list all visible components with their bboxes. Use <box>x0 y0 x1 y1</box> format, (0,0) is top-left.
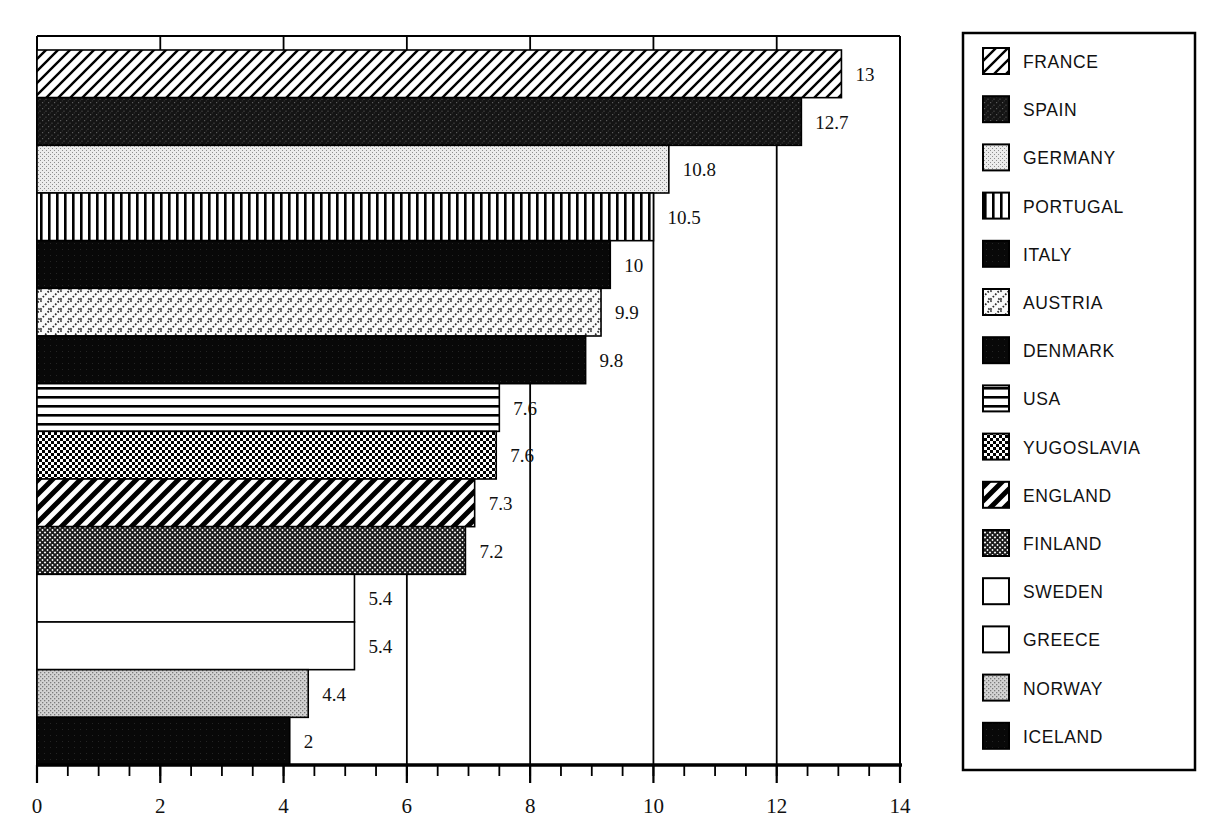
legend-swatch <box>983 530 1009 556</box>
bar-value-label: 5.4 <box>368 636 392 657</box>
bar-germany <box>37 145 669 193</box>
bar-value-label: 2 <box>304 731 314 752</box>
legend-item-england[interactable]: ENGLAND <box>983 482 1112 508</box>
bar-portugal <box>37 193 653 241</box>
legend-item-spain[interactable]: SPAIN <box>983 96 1077 122</box>
bar-value-label: 9.8 <box>600 350 624 371</box>
legend-item-sweden[interactable]: SWEDEN <box>983 578 1103 604</box>
legend-item-italy[interactable]: ITALY <box>983 241 1072 267</box>
legend-label: ENGLAND <box>1023 486 1112 506</box>
bar-value-label: 7.2 <box>479 541 503 562</box>
horizontal-bar-chart: 1312.710.810.5109.99.87.67.67.37.25.45.4… <box>0 0 1222 830</box>
bar-value-label: 7.6 <box>513 398 537 419</box>
legend-swatch <box>983 723 1009 749</box>
chart-page: 1312.710.810.5109.99.87.67.67.37.25.45.4… <box>0 0 1222 830</box>
bar-france <box>37 50 841 98</box>
legend-label: FRANCE <box>1023 52 1099 72</box>
bar-austria <box>37 288 601 336</box>
bar-value-label: 7.6 <box>510 445 534 466</box>
legend-label: GERMANY <box>1023 148 1116 168</box>
legend-label: AUSTRIA <box>1023 293 1103 313</box>
x-tick-label: 8 <box>525 794 536 818</box>
legend-label: FINLAND <box>1023 534 1102 554</box>
x-tick-label: 10 <box>643 794 664 818</box>
bar-yugoslavia <box>37 431 496 479</box>
bar-value-label: 4.4 <box>322 684 346 705</box>
legend-label: SPAIN <box>1023 100 1077 120</box>
bar-england <box>37 479 475 527</box>
legend-swatch <box>983 434 1009 460</box>
legend-label: ITALY <box>1023 245 1072 265</box>
legend-swatch <box>983 48 1009 74</box>
bar-denmark <box>37 336 586 384</box>
legend-swatch <box>983 289 1009 315</box>
legend-item-norway[interactable]: NORWAY <box>983 675 1103 701</box>
bar-iceland <box>37 717 290 765</box>
legend-label: PORTUGAL <box>1023 197 1124 217</box>
legend-label: SWEDEN <box>1023 582 1103 602</box>
bar-value-label: 7.3 <box>489 493 513 514</box>
legend-label: DENMARK <box>1023 341 1115 361</box>
bar-value-label: 12.7 <box>815 112 848 133</box>
bar-value-label: 9.9 <box>615 302 639 323</box>
legend-swatch <box>983 193 1009 219</box>
bar-norway <box>37 670 308 718</box>
x-tick-label: 12 <box>766 794 787 818</box>
legend-item-austria[interactable]: AUSTRIA <box>983 289 1103 315</box>
legend-swatch <box>983 626 1009 652</box>
legend-item-greece[interactable]: GREECE <box>983 626 1101 652</box>
legend: FRANCESPAINGERMANYPORTUGALITALYAUSTRIADE… <box>963 33 1195 770</box>
bar-finland <box>37 527 465 575</box>
bar-value-label: 10 <box>624 255 643 276</box>
legend-swatch <box>983 675 1009 701</box>
legend-item-germany[interactable]: GERMANY <box>983 144 1116 170</box>
bar-usa <box>37 384 499 432</box>
x-tick-label: 14 <box>890 794 912 818</box>
x-tick-label: 6 <box>402 794 413 818</box>
bar-value-label: 5.4 <box>368 588 392 609</box>
legend-item-yugoslavia[interactable]: YUGOSLAVIA <box>983 434 1141 460</box>
bar-spain <box>37 98 801 146</box>
legend-swatch <box>983 337 1009 363</box>
legend-swatch <box>983 385 1009 411</box>
legend-item-france[interactable]: FRANCE <box>983 48 1099 74</box>
legend-label: YUGOSLAVIA <box>1023 438 1141 458</box>
legend-swatch <box>983 482 1009 508</box>
legend-label: NORWAY <box>1023 679 1103 699</box>
legend-item-denmark[interactable]: DENMARK <box>983 337 1115 363</box>
bar-italy <box>37 241 610 289</box>
x-tick-label: 0 <box>32 794 43 818</box>
legend-label: GREECE <box>1023 630 1101 650</box>
legend-label: ICELAND <box>1023 727 1103 747</box>
bar-greece <box>37 622 354 670</box>
legend-swatch <box>983 144 1009 170</box>
legend-swatch <box>983 241 1009 267</box>
legend-item-finland[interactable]: FINLAND <box>983 530 1102 556</box>
bar-value-label: 10.5 <box>667 207 700 228</box>
x-tick-label: 4 <box>278 794 289 818</box>
x-tick-label: 2 <box>155 794 166 818</box>
legend-swatch <box>983 96 1009 122</box>
legend-item-iceland[interactable]: ICELAND <box>983 723 1103 749</box>
legend-item-portugal[interactable]: PORTUGAL <box>983 193 1124 219</box>
bar-sweden <box>37 574 354 622</box>
legend-label: USA <box>1023 389 1061 409</box>
bar-value-label: 13 <box>855 64 874 85</box>
bar-value-label: 10.8 <box>683 159 716 180</box>
legend-swatch <box>983 578 1009 604</box>
